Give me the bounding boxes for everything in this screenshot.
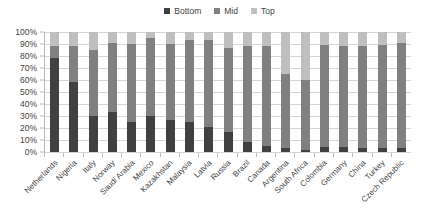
bar-segment-mid[interactable] — [166, 44, 175, 120]
x-axis-tickmark — [160, 153, 161, 157]
bar-segment-top[interactable] — [262, 32, 271, 46]
bar-segment-mid[interactable] — [378, 45, 387, 148]
x-axis-label: Netherlands — [23, 159, 59, 195]
bar-segment-bottom[interactable] — [89, 116, 98, 152]
bar-segment-top[interactable] — [281, 32, 290, 74]
x-axis-tickmark — [63, 153, 64, 157]
x-axis-tickmark — [179, 153, 180, 157]
bar-segment-bottom[interactable] — [108, 112, 117, 152]
bar-segment-bottom[interactable] — [339, 147, 348, 152]
bar-segment-mid[interactable] — [146, 38, 155, 116]
bar-segment-top[interactable] — [397, 32, 406, 43]
bar-segment-bottom[interactable] — [224, 132, 233, 152]
bar-slot — [334, 32, 353, 152]
bar-slot — [238, 32, 257, 152]
bar-segment-mid[interactable] — [339, 46, 348, 147]
bar-segment-top[interactable] — [358, 32, 367, 46]
bar-stack[interactable] — [69, 32, 78, 152]
bar-segment-bottom[interactable] — [301, 150, 310, 152]
bar-segment-top[interactable] — [166, 32, 175, 44]
bar-segment-bottom[interactable] — [69, 82, 78, 152]
bar-segment-mid[interactable] — [89, 50, 98, 116]
legend-item-mid[interactable]: Mid — [214, 7, 238, 16]
y-axis-tick-label: 40% — [20, 100, 37, 109]
bar-stack[interactable] — [108, 32, 117, 152]
bar-segment-bottom[interactable] — [397, 148, 406, 152]
x-axis-tickmark — [275, 153, 276, 157]
bar-stack[interactable] — [50, 32, 59, 152]
bar-segment-mid[interactable] — [224, 48, 233, 132]
chart-legend: BottomMidTop — [0, 7, 439, 16]
bar-segment-top[interactable] — [224, 32, 233, 48]
bar-segment-top[interactable] — [204, 32, 213, 40]
bar-segment-mid[interactable] — [301, 80, 310, 150]
bar-segment-mid[interactable] — [69, 46, 78, 82]
x-axis-tickmark — [217, 153, 218, 157]
x-axis-labels: NetherlandsNigeriaItalyNorwaySaudi Arabi… — [44, 158, 410, 218]
bar-segment-mid[interactable] — [358, 46, 367, 148]
bar-stack[interactable] — [166, 32, 175, 152]
bar-stack[interactable] — [339, 32, 348, 152]
bar-slot — [180, 32, 199, 152]
bar-stack[interactable] — [397, 32, 406, 152]
bar-segment-mid[interactable] — [108, 43, 117, 113]
bar-segment-top[interactable] — [185, 32, 194, 40]
bar-segment-mid[interactable] — [262, 46, 271, 146]
bar-stack[interactable] — [204, 32, 213, 152]
bar-segment-top[interactable] — [320, 32, 329, 45]
bar-segment-top[interactable] — [301, 32, 310, 80]
bar-segment-bottom[interactable] — [358, 148, 367, 152]
bar-stack[interactable] — [358, 32, 367, 152]
bar-segment-mid[interactable] — [127, 44, 136, 122]
legend-item-top[interactable]: Top — [251, 7, 275, 16]
bar-segment-mid[interactable] — [243, 46, 252, 142]
bar-segment-top[interactable] — [89, 32, 98, 50]
bar-segment-bottom[interactable] — [262, 146, 271, 152]
bar-segment-bottom[interactable] — [50, 58, 59, 152]
x-axis-tickmark — [294, 153, 295, 157]
bar-segment-bottom[interactable] — [281, 148, 290, 152]
bar-stack[interactable] — [243, 32, 252, 152]
bar-segment-mid[interactable] — [320, 45, 329, 147]
bar-stack[interactable] — [127, 32, 136, 152]
bar-slot — [276, 32, 295, 152]
bar-segment-bottom[interactable] — [204, 127, 213, 152]
bar-stack[interactable] — [146, 32, 155, 152]
bar-slot — [218, 32, 237, 152]
bar-segment-bottom[interactable] — [320, 147, 329, 152]
legend-item-bottom[interactable]: Bottom — [164, 7, 201, 16]
bar-segment-bottom[interactable] — [378, 148, 387, 152]
bar-stack[interactable] — [320, 32, 329, 152]
bar-stack[interactable] — [89, 32, 98, 152]
y-axis-tick-label: 30% — [20, 112, 37, 121]
x-axis-label-slot: Saudi Arabia — [121, 158, 140, 218]
bar-segment-mid[interactable] — [185, 40, 194, 122]
bar-segment-top[interactable] — [108, 32, 117, 43]
bar-segment-bottom[interactable] — [166, 120, 175, 152]
bar-stack[interactable] — [185, 32, 194, 152]
bar-segment-mid[interactable] — [204, 40, 213, 126]
x-axis-label-slot: Netherlands — [44, 158, 63, 218]
bar-segment-top[interactable] — [243, 32, 252, 46]
bar-segment-bottom[interactable] — [127, 122, 136, 152]
bar-segment-mid[interactable] — [281, 74, 290, 148]
bar-segment-bottom[interactable] — [243, 142, 252, 152]
bar-segment-top[interactable] — [50, 32, 59, 46]
bar-slot — [141, 32, 160, 152]
bar-segment-mid[interactable] — [397, 43, 406, 149]
bar-stack[interactable] — [301, 32, 310, 152]
bar-slot — [295, 32, 314, 152]
bar-stack[interactable] — [262, 32, 271, 152]
bar-segment-mid[interactable] — [50, 46, 59, 58]
bar-stack[interactable] — [378, 32, 387, 152]
bar-segment-top[interactable] — [378, 32, 387, 45]
bar-segment-top[interactable] — [339, 32, 348, 46]
bar-slot — [353, 32, 372, 152]
bar-segment-bottom[interactable] — [185, 122, 194, 152]
x-axis-label-slot: Czech Republic — [391, 158, 410, 218]
bar-segment-top[interactable] — [127, 32, 136, 44]
bar-stack[interactable] — [224, 32, 233, 152]
bar-stack[interactable] — [281, 32, 290, 152]
bar-segment-bottom[interactable] — [146, 116, 155, 152]
bar-segment-top[interactable] — [69, 32, 78, 46]
